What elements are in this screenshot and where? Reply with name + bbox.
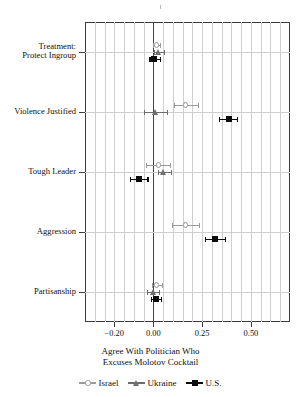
error-bar-cap-low: [147, 290, 148, 295]
y-axis-tick: [79, 232, 85, 233]
error-bar-cap-low: [130, 177, 131, 182]
data-point-ukraine-4: [150, 289, 156, 295]
gridline-y: [85, 112, 290, 113]
data-point-ukraine-2: [160, 169, 166, 175]
y-axis-label-line1: Tough Leader: [0, 167, 76, 177]
error-bar-cap-high: [159, 290, 160, 295]
data-point-us-3: [212, 236, 218, 242]
y-axis-label-line1: Partisanship: [0, 287, 76, 297]
x-axis-tick: [202, 322, 203, 327]
legend: IsraelUkraineU.S.: [0, 377, 301, 388]
top-artifact-mark: [160, 5, 161, 9]
y-axis-label-line2: Protect Ingroup: [0, 51, 76, 61]
data-point-israel-3: [183, 222, 188, 227]
x-axis-caption-line2: Excuses Molotov Cocktail: [0, 357, 301, 368]
x-axis-tick-label: −0.20: [94, 329, 134, 338]
y-axis-label: Tough Leader: [0, 167, 76, 177]
error-bar-cap-low: [158, 170, 159, 175]
error-bar-cap-high: [161, 297, 162, 302]
data-point-us-4: [153, 296, 159, 302]
legend-square-icon: [186, 379, 203, 387]
data-point-israel-0: [154, 42, 159, 47]
x-axis-caption-line1: Agree With Politician Who: [0, 346, 301, 357]
legend-label: Ukraine: [147, 378, 176, 388]
error-bar-cap-high: [170, 163, 171, 168]
coefficient-plot: Treatment:Protect IngroupViolence Justif…: [0, 0, 301, 397]
error-bar-cap-high: [164, 50, 165, 55]
error-bar-cap-low: [174, 103, 175, 108]
error-bar-cap-low: [146, 163, 147, 168]
y-axis-label-line1: Aggression: [0, 227, 76, 237]
x-axis-tick-label: 0.00: [133, 329, 173, 338]
legend-label: U.S.: [205, 378, 221, 388]
data-point-israel-1: [183, 102, 188, 107]
data-point-israel-2: [156, 162, 161, 167]
y-axis-label: Treatment:Protect Ingroup: [0, 42, 76, 61]
data-point-us-1: [226, 116, 232, 122]
data-point-ukraine-0: [155, 49, 161, 55]
error-bar-cap-high: [199, 223, 200, 228]
error-bar-cap-high: [147, 177, 148, 182]
y-axis-tick: [79, 172, 85, 173]
error-bar-cap-high: [225, 237, 226, 242]
gridline-y: [85, 292, 290, 293]
gridline-y: [85, 172, 290, 173]
error-bar-cap-low: [205, 237, 206, 242]
gridline-y: [85, 52, 290, 53]
error-bar-cap-high: [198, 103, 199, 108]
y-axis-tick: [79, 52, 85, 53]
y-axis-label: Aggression: [0, 227, 76, 237]
y-axis-label-line1: Violence Justified: [0, 107, 76, 117]
error-bar-cap-high: [162, 283, 163, 288]
data-point-us-2: [136, 176, 142, 182]
x-axis-tick-label: 0.25: [182, 329, 222, 338]
error-bar-cap-high: [171, 170, 172, 175]
legend-item-us[interactable]: U.S.: [186, 377, 221, 388]
legend-circle-icon: [79, 379, 96, 387]
x-axis-tick: [251, 322, 252, 327]
error-bar-cap-low: [172, 223, 173, 228]
y-axis-tick: [79, 112, 85, 113]
data-point-us-0: [151, 56, 157, 62]
x-axis-caption: Agree With Politician Who Excuses Moloto…: [0, 346, 301, 369]
legend-triangle-icon: [128, 379, 145, 387]
error-bar-cap-low: [219, 117, 220, 122]
x-axis-tick-label: 0.50: [231, 329, 271, 338]
y-axis-label: Partisanship: [0, 287, 76, 297]
error-bar-cap-low: [144, 110, 145, 115]
gridline-y: [85, 232, 290, 233]
error-bar-cap-high: [167, 110, 168, 115]
legend-item-ukraine[interactable]: Ukraine: [128, 377, 176, 388]
legend-item-israel[interactable]: Israel: [79, 377, 118, 388]
x-axis-tick: [114, 322, 115, 327]
error-bar-cap-high: [237, 117, 238, 122]
error-bar-cap-high: [160, 57, 161, 62]
legend-label: Israel: [98, 378, 118, 388]
y-axis-label: Violence Justified: [0, 107, 76, 117]
error-bar-cap-high: [160, 43, 161, 48]
y-axis-tick: [79, 292, 85, 293]
x-axis-tick: [153, 322, 154, 327]
data-point-ukraine-1: [152, 109, 158, 115]
data-point-israel-4: [154, 282, 159, 287]
